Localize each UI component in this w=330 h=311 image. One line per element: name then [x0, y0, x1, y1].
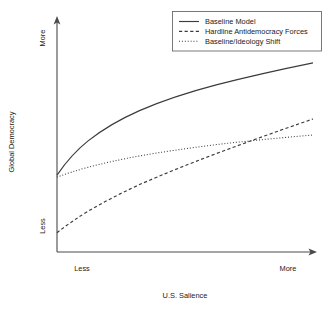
- series-line-baseline-model: [57, 63, 313, 175]
- x-axis-tick-label-less: Less: [74, 264, 90, 273]
- series-line-baseline-ideology-shift: [57, 135, 313, 177]
- axes-group: [54, 16, 317, 255]
- x-axis-tick-label-more: More: [280, 264, 297, 273]
- legend-label-baseline-model: Baseline Model: [205, 17, 256, 26]
- chart-legend: Baseline Model Hardline Antidemocracy Fo…: [173, 12, 322, 52]
- chart-figure: Baseline Model Hardline Antidemocracy Fo…: [0, 0, 330, 311]
- line-chart: Baseline Model Hardline Antidemocracy Fo…: [0, 0, 330, 311]
- y-axis-tick-label-more: More: [38, 30, 47, 47]
- y-axis-tick-label-less: Less: [38, 218, 47, 234]
- legend-label-baseline-ideology-shift: Baseline/Ideology Shift: [205, 37, 280, 46]
- legend-label-hardline-antidemocracy-forces: Hardline Antidemocracy Forces: [205, 27, 308, 36]
- y-axis-title: Global Democracy: [7, 111, 16, 172]
- series-group: [57, 63, 313, 233]
- x-axis-title: U.S. Salience: [163, 291, 208, 300]
